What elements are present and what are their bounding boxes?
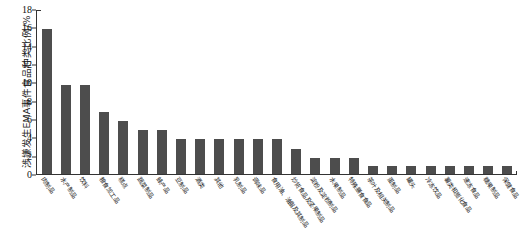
y-tick-mark	[32, 156, 36, 157]
bar	[387, 166, 397, 174]
bar	[214, 139, 224, 174]
x-tick-label: 乳制品	[232, 176, 248, 194]
x-tick-label: 冷冻饮品	[424, 176, 443, 199]
bar	[176, 139, 186, 174]
y-tick-label: 16	[22, 23, 32, 33]
x-axis-line	[36, 174, 517, 175]
y-tick-label: 14	[22, 42, 32, 52]
bar	[330, 158, 340, 174]
plot-area: 024681012141618	[36, 10, 517, 175]
x-tick-label: 蜂产品	[155, 176, 171, 194]
y-tick-mark	[32, 46, 36, 47]
bar	[99, 112, 109, 174]
bar	[118, 121, 128, 174]
bar	[368, 166, 378, 174]
bar	[195, 139, 205, 174]
x-tick-label: 保健食品	[501, 176, 520, 199]
x-tick-label: 速冻食品	[462, 176, 481, 199]
bar	[406, 166, 416, 174]
x-tick-label: 罐头	[405, 176, 417, 190]
y-tick-label: 10	[22, 78, 32, 88]
y-tick-label: 18	[22, 5, 32, 15]
x-tick-label: 蛋制品	[385, 176, 401, 194]
y-tick-mark	[32, 138, 36, 139]
x-tick-label: 豆制品	[174, 176, 190, 194]
y-tick-mark	[32, 10, 36, 11]
bar	[253, 139, 263, 174]
bar	[42, 29, 52, 174]
bar	[157, 130, 167, 174]
bar	[310, 158, 320, 174]
bar-chart: 涉嫌发生EMA事件食品种类比例/% 024681012141618 肉制品水产制…	[0, 0, 525, 251]
x-tick-label: 糖果制品	[481, 176, 500, 199]
bar	[464, 166, 474, 174]
x-tick-label: 水产制品	[59, 176, 78, 199]
x-tick-label: 其他	[213, 176, 225, 190]
y-tick-mark	[32, 101, 36, 102]
y-tick-label: 12	[22, 60, 32, 70]
x-tick-label: 蔬菜制品	[136, 176, 155, 199]
bars-layer	[37, 10, 517, 174]
x-tick-label: 糕点	[117, 176, 129, 190]
bar	[445, 166, 455, 174]
bar	[291, 149, 301, 175]
x-tick-label: 食用油、油脂及其制品	[270, 176, 310, 229]
x-tick-label: 水果制品	[328, 176, 347, 199]
x-tick-label: 肉制品	[40, 176, 56, 194]
y-tick-mark	[32, 28, 36, 29]
bar	[502, 166, 512, 174]
y-tick-mark	[32, 65, 36, 66]
y-tick-mark	[32, 175, 36, 176]
bar	[272, 139, 282, 174]
x-tick-label: 饮料	[78, 176, 90, 190]
bar	[61, 85, 71, 174]
y-tick-mark	[32, 83, 36, 84]
y-tick-mark	[32, 120, 36, 121]
x-tick-label: 酒类	[193, 176, 205, 190]
x-axis-category-labels: 肉制品水产制品饮料粮食加工品糕点蔬菜制品蜂产品豆制品酒类其他乳制品调味品食用油、…	[37, 176, 518, 251]
bar	[80, 85, 90, 174]
bar	[349, 158, 359, 174]
bar	[426, 166, 436, 174]
bar	[483, 166, 493, 174]
bar	[138, 130, 148, 174]
x-tick-label: 调味品	[251, 176, 267, 194]
bar	[234, 139, 244, 174]
